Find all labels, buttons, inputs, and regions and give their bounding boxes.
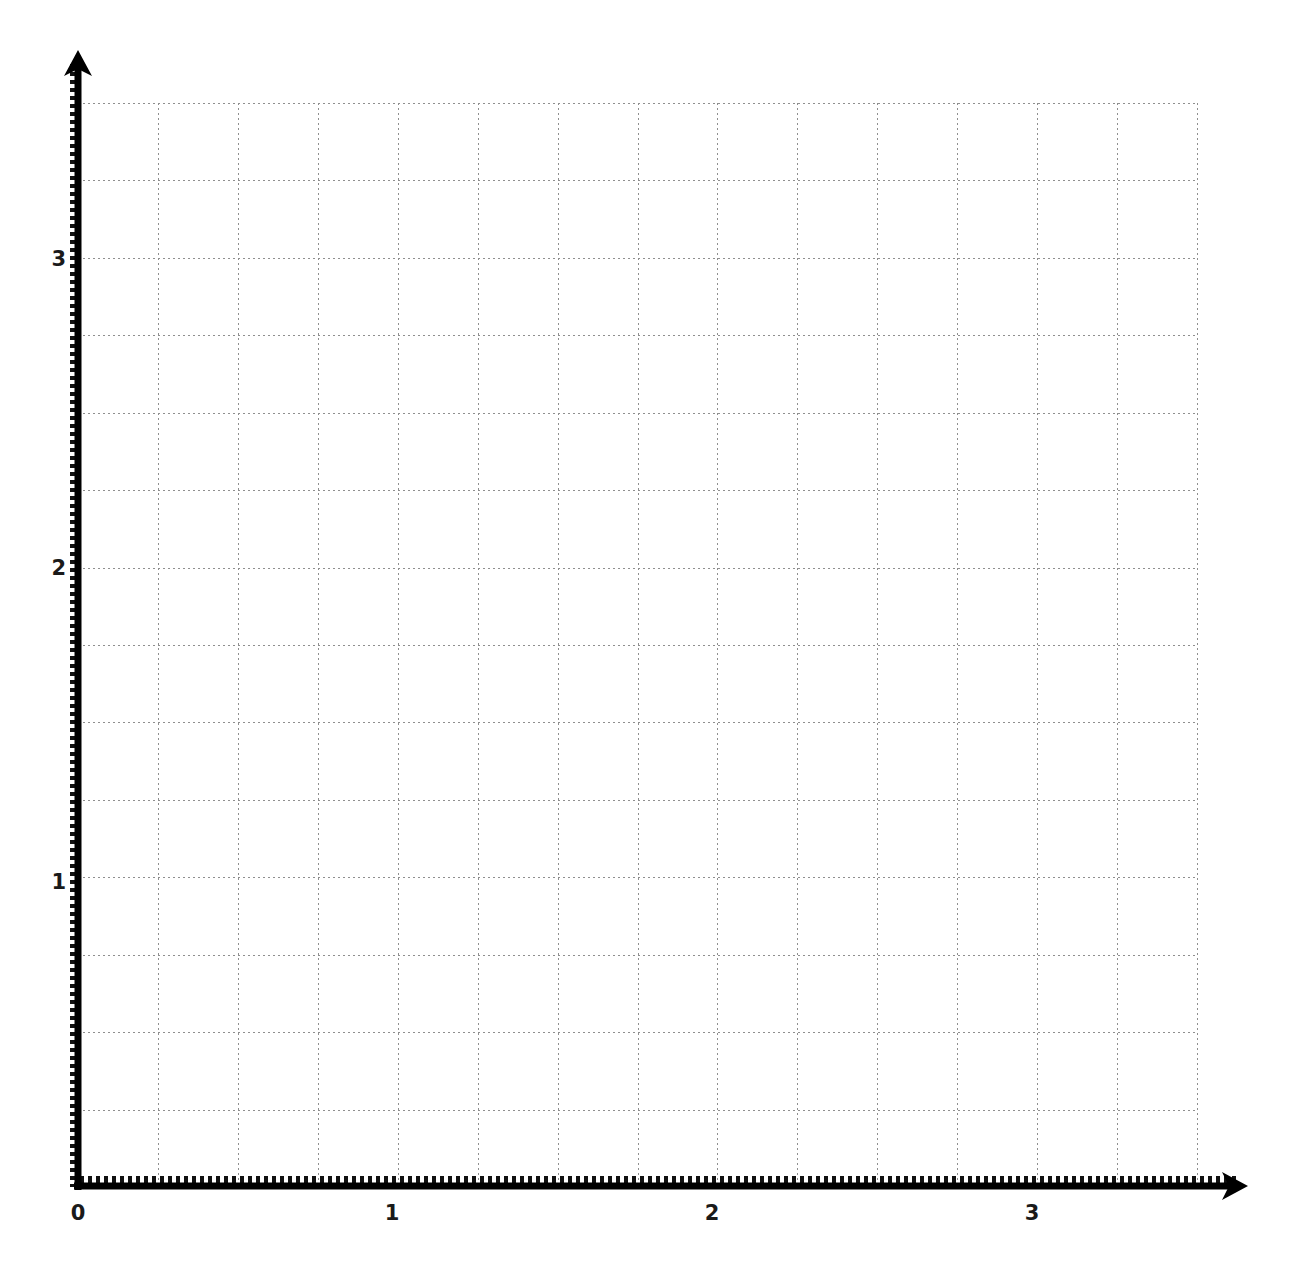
- y-axis-arrowhead: [64, 50, 92, 76]
- grid-line-horizontal: [78, 1032, 1197, 1033]
- grid-line-horizontal: [78, 413, 1197, 414]
- y-tick-label-1: 1: [51, 872, 66, 893]
- y-tick-label-3: 3: [51, 249, 66, 270]
- grid-line-horizontal: [78, 800, 1197, 801]
- grid-line-horizontal: [78, 335, 1197, 336]
- x-tick-label-2: 2: [705, 1203, 720, 1224]
- grid-line-horizontal: [78, 877, 1197, 878]
- grid-line-horizontal: [78, 568, 1197, 569]
- grid-line-horizontal: [78, 955, 1197, 956]
- grid-line-horizontal: [78, 258, 1197, 259]
- x-tick-label-0: 0: [71, 1203, 86, 1224]
- x-tick-label-3: 3: [1025, 1203, 1040, 1224]
- y-axis-tick-hatching: [70, 60, 77, 1187]
- grid-line-horizontal: [78, 103, 1197, 104]
- y-tick-label-2: 2: [51, 558, 66, 579]
- grid-line-horizontal: [78, 645, 1197, 646]
- grid-line-horizontal: [78, 722, 1197, 723]
- graph-paper-canvas: 0 1 2 3 1 2 3: [0, 0, 1294, 1268]
- x-tick-label-1: 1: [385, 1203, 400, 1224]
- grid-line-horizontal: [78, 180, 1197, 181]
- x-axis-arrowhead: [1222, 1172, 1248, 1200]
- grid-line-horizontal: [78, 1110, 1197, 1111]
- coordinate-grid: [78, 103, 1197, 1187]
- grid-line-horizontal: [78, 490, 1197, 491]
- grid-line-vertical: [1197, 103, 1198, 1187]
